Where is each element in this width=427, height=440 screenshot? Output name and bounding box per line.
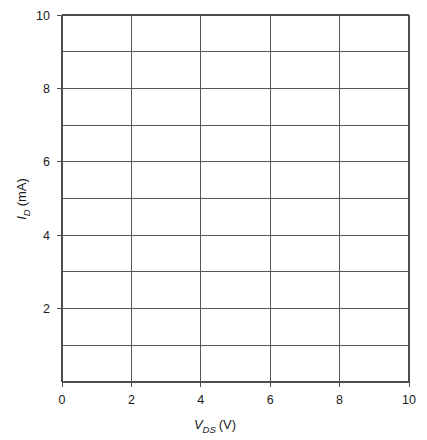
y-tick-label-10: 10 (36, 9, 50, 23)
y-tick-label-8: 8 (43, 82, 50, 96)
x-tick-label-2: 2 (128, 393, 135, 407)
y-axis-title-unit: (mA) (14, 178, 29, 206)
x-tick-label-6: 6 (267, 393, 274, 407)
y-tick-label-6: 6 (43, 155, 50, 169)
empty-plot-grid-figure: 0 2 4 6 8 10 10 8 6 4 2 VDS(V) ID(mA) (0, 0, 427, 440)
y-tick-label-4: 4 (43, 229, 50, 243)
x-axis-title-subscript: DS (203, 424, 217, 435)
y-axis-title: ID(mA) (14, 178, 32, 220)
x-tick-label-10: 10 (402, 393, 416, 407)
x-axis-title: VDS(V) (194, 417, 236, 435)
plot-svg: 0 2 4 6 8 10 10 8 6 4 2 VDS(V) ID(mA) (0, 0, 427, 440)
x-tick-label-0: 0 (59, 393, 66, 407)
y-axis-tick-labels: 10 8 6 4 2 (36, 9, 50, 317)
y-tick-label-2: 2 (43, 302, 50, 316)
x-tick-label-8: 8 (336, 393, 343, 407)
y-axis-tick-marks (57, 15, 62, 309)
x-axis-tick-marks (62, 382, 409, 387)
x-axis-title-unit: (V) (219, 417, 236, 432)
x-axis-tick-labels: 0 2 4 6 8 10 (59, 393, 416, 407)
x-tick-label-4: 4 (197, 393, 204, 407)
y-axis-title-subscript: D (21, 209, 32, 216)
